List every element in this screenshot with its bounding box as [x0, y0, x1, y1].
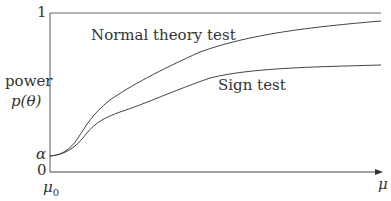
x-tick-sub: 0 [53, 187, 59, 198]
y-axis-label-power: power [5, 74, 53, 89]
sign-test-label: Sign test [218, 78, 286, 93]
x-tick-mu: μ [43, 178, 53, 196]
x-tick-mu0: μ0 [43, 180, 59, 198]
y-axis-label-p-theta: p(θ) [11, 94, 41, 109]
x-axis-label: μ [378, 177, 388, 192]
y-tick-zero: 0 [37, 163, 47, 178]
y-tick-alpha: α [36, 147, 46, 162]
sign-test-curve [50, 65, 381, 156]
y-tick-one: 1 [37, 5, 47, 20]
normal-theory-label: Normal theory test [91, 28, 236, 43]
